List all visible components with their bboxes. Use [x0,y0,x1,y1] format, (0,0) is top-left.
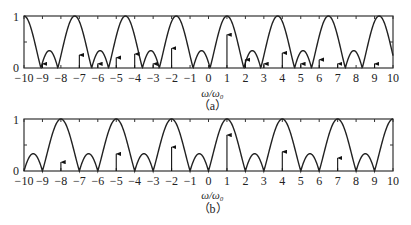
x-tick-label: 3 [261,71,267,85]
x-tick-label: 1 [224,174,230,188]
x-tick-label: 0 [206,174,212,188]
x-tick-label: −7 [73,174,86,188]
x-axis-label: ω/ω₀ [201,189,224,201]
x-tick-label: −5 [110,71,123,85]
x-tick-label: −8 [55,174,68,188]
x-tick-label: 0 [206,71,212,85]
x-tick-label: 6 [316,71,322,85]
x-tick-label: 10 [387,71,399,85]
x-tick-label: −3 [147,71,160,85]
x-tick-label: 2 [242,174,248,188]
x-tick-label: 7 [335,174,341,188]
x-tick-label: 8 [353,174,359,188]
x-tick-label: 6 [316,174,322,188]
y-tick-label-0: 0 [13,164,19,178]
figure: −10−9−8−7−6−5−4−3−2−101234567891010ω/ω₀（… [0,0,411,225]
panel-a: −10−9−8−7−6−5−4−3−2−101234567891010ω/ω₀（… [13,10,399,113]
x-tick-label: −8 [55,71,68,85]
panel-b: −10−9−8−7−6−5−4−3−2−101234567891010ω/ω₀（… [13,113,399,216]
x-tick-label: 5 [298,174,304,188]
x-tick-label: 8 [353,71,359,85]
y-tick-label-0: 0 [13,61,19,75]
x-tick-label: 10 [387,174,399,188]
y-tick-label-1: 1 [13,113,19,127]
x-tick-label: 3 [261,174,267,188]
x-tick-label: 4 [279,174,285,188]
x-tick-label: −7 [73,71,86,85]
x-tick-label: −6 [91,71,104,85]
x-tick-label: −4 [128,174,141,188]
x-tick-label: −2 [165,174,178,188]
x-tick-label: 1 [224,71,230,85]
x-tick-label: 7 [335,71,341,85]
x-tick-label: −1 [184,71,197,85]
y-tick-label-1: 1 [13,10,19,24]
x-tick-label: −4 [128,71,141,85]
x-tick-label: −6 [91,174,104,188]
x-tick-label: 2 [242,71,248,85]
x-tick-label: −3 [147,174,160,188]
x-tick-label: 9 [372,174,378,188]
x-tick-label: −9 [36,174,49,188]
x-tick-label: 4 [279,71,285,85]
x-tick-label: −2 [165,71,178,85]
panel-caption: （b） [198,202,228,216]
x-tick-label: 5 [298,71,304,85]
x-axis-label: ω/ω₀ [201,87,224,99]
x-tick-label: −9 [36,71,49,85]
x-tick-label: 9 [372,71,378,85]
x-tick-label: −5 [110,174,123,188]
panel-caption: （a） [198,99,227,113]
x-tick-label: −1 [184,174,197,188]
